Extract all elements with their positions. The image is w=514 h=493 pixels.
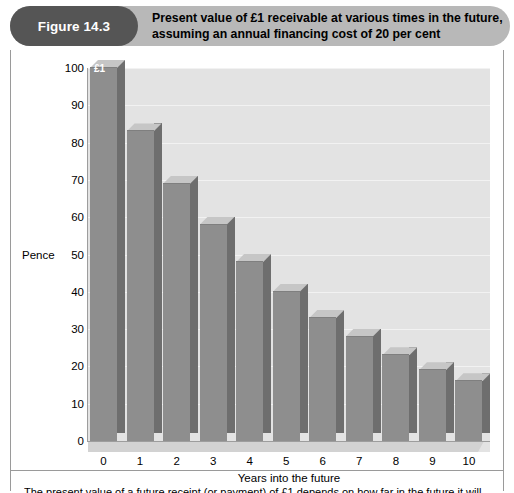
bar-front-face: [200, 224, 227, 441]
bar-front-face: [273, 291, 300, 441]
x-tick-label: 9: [429, 455, 435, 467]
bar-side-face: [409, 347, 417, 433]
bar-side-face: [373, 329, 381, 433]
bar: [309, 310, 344, 441]
x-tick-label: 2: [173, 455, 179, 467]
bar-side-face: [336, 310, 344, 433]
bar: [127, 123, 162, 441]
x-tick-label: 1: [137, 455, 143, 467]
bar: [455, 373, 490, 441]
x-tick-label: 10: [463, 455, 476, 467]
y-tick-label: 0: [0, 435, 84, 447]
bar: [200, 217, 235, 441]
bar-value-annotation: £1: [94, 63, 105, 74]
bar: [346, 329, 381, 441]
y-axis-line: [87, 68, 88, 442]
y-tick-label: 70: [0, 174, 84, 186]
x-axis-title: Years into the future: [88, 472, 490, 484]
bar-front-face: [236, 261, 263, 441]
bar-side-face: [263, 254, 271, 433]
y-tick-label: 40: [0, 286, 84, 298]
x-tick-label: 3: [210, 455, 216, 467]
x-tick-label: 4: [246, 455, 252, 467]
bar-front-face: [346, 336, 373, 441]
y-axis-ticks: 0102030405060708090100: [0, 0, 84, 470]
x-tick-label: 7: [356, 455, 362, 467]
bar-front-face: [90, 67, 117, 441]
bar-side-face: [117, 60, 125, 433]
y-tick-label: 20: [0, 360, 84, 372]
bar-side-face: [227, 217, 235, 433]
figure-caption: The present value of a future receipt (o…: [24, 485, 492, 493]
y-tick-label: 100: [0, 62, 84, 74]
bar: [382, 347, 417, 441]
bar-front-face: [455, 380, 482, 441]
bar-front-face: [382, 354, 409, 441]
x-axis-line: [87, 441, 490, 442]
chart-floor-slab: [88, 441, 490, 452]
gridline: [88, 105, 490, 106]
y-tick-label: 80: [0, 137, 84, 149]
y-tick-label: 60: [0, 211, 84, 223]
y-tick-label: 10: [0, 398, 84, 410]
gridline: [88, 68, 490, 69]
bar: [419, 362, 454, 441]
bar-side-face: [482, 373, 490, 433]
bar: [163, 176, 198, 441]
bar-side-face: [446, 362, 454, 433]
bar-side-face: [300, 284, 308, 433]
bar: [273, 284, 308, 441]
bar-front-face: [127, 130, 154, 441]
y-tick-label: 30: [0, 323, 84, 335]
x-tick-label: 8: [393, 455, 399, 467]
bar-front-face: [419, 369, 446, 441]
caption-divider: [11, 470, 503, 471]
y-tick-label: 90: [0, 99, 84, 111]
x-tick-label: 0: [100, 455, 106, 467]
bar-front-face: [163, 183, 190, 441]
x-tick-label: 5: [283, 455, 289, 467]
bar: £1: [90, 60, 125, 441]
bar-side-face: [154, 123, 162, 433]
bar-chart: 0102030405060708090100 £1 012345678910 Y…: [0, 0, 514, 470]
x-tick-label: 6: [320, 455, 326, 467]
bar: [236, 254, 271, 441]
bar-side-face: [190, 176, 198, 433]
bar-front-face: [309, 317, 336, 441]
y-axis-title: Pence: [22, 249, 55, 261]
